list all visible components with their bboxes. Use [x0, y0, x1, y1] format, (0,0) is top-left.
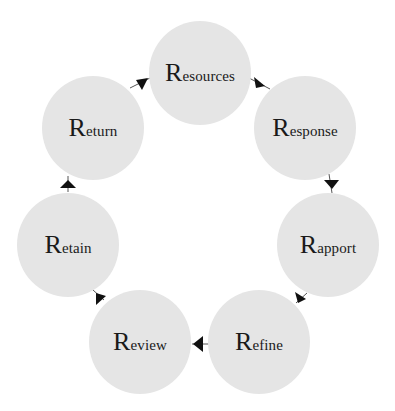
arrow-resources-to-response	[249, 77, 270, 89]
node-return-label: Return	[69, 113, 118, 143]
node-retain: Retain	[17, 193, 119, 297]
node-review-label: Review	[113, 327, 167, 357]
arrow-return-to-resources	[130, 78, 150, 90]
node-refine-label: Refine	[235, 327, 283, 357]
arrow-rapport-to-refine	[295, 292, 307, 303]
arrow-review-to-retain	[93, 290, 106, 305]
node-rapport: Rapport	[277, 193, 379, 297]
arrow-retain-to-return	[60, 176, 76, 192]
arrow-response-to-rapport	[324, 174, 339, 193]
node-review: Review	[89, 290, 191, 394]
node-return: Return	[42, 76, 144, 180]
node-resources: Resources	[149, 21, 251, 125]
node-response: Response	[254, 76, 356, 180]
node-resources-label: Resources	[165, 58, 235, 88]
seven-r-cycle-diagram: Resources Response Rapport Refine Review…	[0, 0, 395, 411]
node-retain-label: Retain	[44, 230, 91, 260]
node-rapport-label: Rapport	[300, 230, 356, 260]
node-refine: Refine	[208, 290, 310, 394]
node-response-label: Response	[272, 113, 338, 143]
